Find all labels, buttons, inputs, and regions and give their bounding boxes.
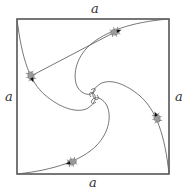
pursuit-curve-top-right	[75, 19, 169, 94]
pursuit-diagram: a a a a	[0, 0, 189, 192]
pursuit-curve-bottom-left	[17, 98, 109, 174]
bug-icon	[109, 25, 124, 38]
label-right-side: a	[175, 90, 183, 103]
diagram-canvas	[0, 0, 189, 192]
label-left-side: a	[5, 90, 13, 103]
pursuit-curve-bottom-right	[93, 82, 169, 174]
bug-icon	[25, 70, 39, 85]
pursuit-curve-top-left	[17, 19, 95, 110]
label-bottom-side: a	[89, 176, 97, 189]
label-top-side: a	[91, 2, 99, 15]
sight-line	[31, 33, 113, 76]
bug-icon	[64, 156, 79, 169]
bug-icon	[150, 110, 164, 125]
